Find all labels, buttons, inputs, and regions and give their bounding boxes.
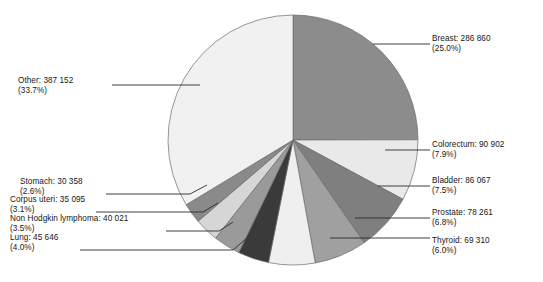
- pie-slice-breast: [293, 15, 418, 140]
- label-corpus-uteri-percent: (3.1%): [10, 205, 85, 215]
- label-stomach: Stomach: 30 358 (2.6%): [20, 177, 83, 196]
- label-corpus-uteri-text: Corpus uteri: 35 095: [10, 195, 85, 205]
- label-thyroid-text: Thyroid: 69 310: [432, 236, 490, 246]
- label-lung-text: Lung: 45 646: [10, 233, 58, 243]
- label-bladder-text: Bladder: 86 067: [432, 176, 491, 186]
- label-breast: Breast: 286 860 (25.0%): [432, 34, 491, 53]
- label-corpus-uteri: Corpus uteri: 35 095 (3.1%): [10, 195, 85, 214]
- label-thyroid: Thyroid: 69 310 (6.0%): [432, 236, 490, 255]
- label-bladder-percent: (7.5%): [432, 186, 491, 196]
- label-other-text: Other: 387 152: [18, 76, 73, 86]
- label-lung: Lung: 45 646 (4.0%): [10, 233, 58, 252]
- pie-chart: Breast: 286 860 (25.0%) Colorectum: 90 9…: [0, 0, 543, 282]
- pie-slices: [168, 15, 418, 265]
- label-thyroid-percent: (6.0%): [432, 246, 490, 256]
- label-stomach-text: Stomach: 30 358: [20, 177, 83, 187]
- label-bladder: Bladder: 86 067 (7.5%): [432, 176, 491, 195]
- label-breast-text: Breast: 286 860: [432, 34, 491, 44]
- label-lung-percent: (4.0%): [10, 243, 58, 253]
- label-non-hodgkin-lymphoma-text: Non Hodgkin lymphoma: 40 021: [10, 214, 128, 224]
- label-other-percent: (33.7%): [18, 86, 73, 96]
- label-other: Other: 387 152 (33.7%): [18, 76, 73, 95]
- label-colorectum-percent: (7.9%): [432, 150, 504, 160]
- label-prostate-percent: (6.8%): [432, 218, 493, 228]
- label-non-hodgkin-lymphoma: Non Hodgkin lymphoma: 40 021 (3.5%): [10, 214, 128, 233]
- label-colorectum-text: Colorectum: 90 902: [432, 140, 504, 150]
- label-prostate: Prostate: 78 261 (6.8%): [432, 208, 493, 227]
- label-prostate-text: Prostate: 78 261: [432, 208, 493, 218]
- label-non-hodgkin-lymphoma-percent: (3.5%): [10, 224, 128, 234]
- label-breast-percent: (25.0%): [432, 44, 491, 54]
- label-colorectum: Colorectum: 90 902 (7.9%): [432, 140, 504, 159]
